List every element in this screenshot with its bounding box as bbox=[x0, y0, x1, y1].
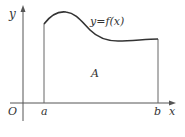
y-axis-arrow-icon bbox=[21, 5, 26, 12]
origin-label: O bbox=[8, 105, 17, 118]
y-axis bbox=[21, 5, 26, 121]
bound-label-a: a bbox=[41, 105, 48, 118]
bound-label-b: b bbox=[154, 105, 161, 118]
region-label: A bbox=[90, 67, 99, 80]
x-axis-label: x bbox=[169, 105, 176, 118]
diagram-canvas: y y=f(x) A O a b x bbox=[0, 0, 185, 137]
curve-label: y=f(x) bbox=[89, 15, 124, 28]
x-axis bbox=[10, 101, 176, 106]
y-axis-label: y bbox=[8, 7, 16, 21]
